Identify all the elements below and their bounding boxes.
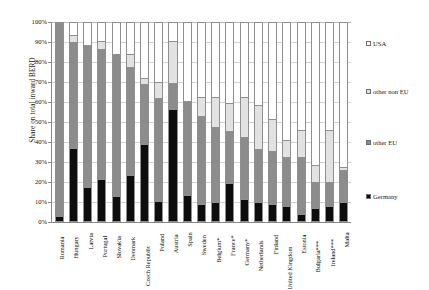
x-axis-label: Ireland***: [329, 239, 336, 267]
stacked-bar[interactable]: [268, 22, 277, 222]
bar-slot: [251, 22, 265, 222]
bar-segment-othernoneu: [169, 41, 176, 83]
x-axis-label-slot: Ireland***: [321, 224, 335, 288]
bar-segment-germany: [212, 202, 219, 221]
x-axis-label: United Kingdom: [286, 247, 293, 290]
x-axis-label: Malta: [343, 232, 350, 247]
bar-segment-othereu: [141, 84, 148, 144]
x-axis-label: Finland: [272, 235, 279, 255]
stacked-bar[interactable]: [311, 22, 320, 222]
x-axis-label: Sweden: [200, 235, 207, 255]
bar-segment-othernoneu: [212, 97, 219, 127]
bar-segment-othernoneu: [155, 82, 162, 99]
bar-segment-othereu: [98, 49, 105, 179]
bar-segment-othernoneu: [269, 119, 276, 151]
x-axis-label-slot: Romania: [51, 224, 65, 288]
y-axis-tick-label: 30%: [21, 159, 47, 166]
bar-segment-othernoneu: [226, 103, 233, 131]
bar-segment-usa: [198, 23, 205, 97]
bar-slot: [194, 22, 208, 222]
stacked-bar[interactable]: [211, 22, 220, 222]
y-axis-tick-label: 90%: [21, 39, 47, 46]
bar-slot: [52, 22, 66, 222]
y-axis-tick-label: 40%: [21, 139, 47, 146]
legend-item-othereu[interactable]: other EU: [366, 139, 428, 147]
bar-slot: [123, 22, 137, 222]
bar-slot: [166, 22, 180, 222]
bar-segment-othernoneu: [141, 78, 148, 85]
bar-slot: [266, 22, 280, 222]
bar-segment-usa: [298, 23, 305, 130]
bar-segment-othereu: [255, 149, 262, 203]
bar-segment-germany: [312, 208, 319, 221]
stacked-bar[interactable]: [140, 22, 149, 222]
x-axis-label: France*: [229, 235, 236, 256]
bar-segment-othereu: [169, 83, 176, 109]
bar-segment-othereu: [312, 182, 319, 208]
bar-segment-germany: [283, 206, 290, 221]
bar-slot: [337, 22, 351, 222]
legend-item-usa[interactable]: USA: [366, 40, 428, 48]
stacked-bar[interactable]: [69, 22, 78, 222]
bar-segment-usa: [255, 23, 262, 105]
legend-label: Germany: [373, 193, 428, 201]
stacked-bar[interactable]: [254, 22, 263, 222]
y-axis-tick-label: 20%: [21, 179, 47, 186]
stacked-bar[interactable]: [55, 22, 64, 222]
bar-segment-germany: [241, 199, 248, 221]
bar-segment-othereu: [340, 170, 347, 202]
legend-item-othernoneu[interactable]: other non EU: [366, 88, 428, 96]
x-axis-label-slot: Austria: [165, 224, 179, 288]
bar-segment-germany: [113, 196, 120, 221]
stacked-bar[interactable]: [183, 22, 192, 222]
bar-segment-usa: [241, 23, 248, 97]
bar-segment-othernoneu: [312, 165, 319, 182]
stacked-bar[interactable]: [126, 22, 135, 222]
y-axis-tick-label: 0%: [21, 219, 47, 226]
bar-slot: [209, 22, 223, 222]
x-axis-label: Bulgaria***: [314, 241, 321, 273]
stacked-bar[interactable]: [97, 22, 106, 222]
stacked-bar[interactable]: [325, 22, 334, 222]
x-axis-label-slot: Latvia: [79, 224, 93, 288]
legend-label: other EU: [373, 139, 428, 147]
bar-segment-germany: [269, 204, 276, 221]
x-axis-label: Czech Republic: [144, 245, 151, 286]
bar-segment-othernoneu: [241, 97, 248, 137]
stacked-bar[interactable]: [197, 22, 206, 222]
x-axis-label-slot: Belgium*: [208, 224, 222, 288]
bar-segment-usa: [340, 23, 347, 167]
bar-segment-usa: [84, 23, 91, 45]
stacked-bar[interactable]: [339, 22, 348, 222]
bar-segment-othernoneu: [70, 35, 77, 42]
y-axis-tick-label: 50%: [21, 119, 47, 126]
stacked-bar[interactable]: [240, 22, 249, 222]
x-axis-label: Germany*: [243, 238, 250, 265]
stacked-bar[interactable]: [282, 22, 291, 222]
bar-segment-othernoneu: [255, 105, 262, 149]
stacked-bar[interactable]: [83, 22, 92, 222]
stacked-bar[interactable]: [112, 22, 121, 222]
legend-label: USA: [373, 40, 428, 48]
bar-slot: [95, 22, 109, 222]
chart-legend: USAother non EUother EUGermany: [366, 22, 429, 222]
bar-segment-germany: [70, 148, 77, 221]
x-axis-label: Spain: [186, 232, 193, 247]
bar-segment-othereu: [70, 42, 77, 148]
stacked-bar[interactable]: [225, 22, 234, 222]
stacked-bar[interactable]: [297, 22, 306, 222]
legend-swatch-othereu-icon: [366, 140, 371, 145]
x-axis-label: Austria: [172, 234, 179, 253]
x-axis-label-slot: Poland: [151, 224, 165, 288]
bar-segment-usa: [283, 23, 290, 140]
stacked-bar[interactable]: [154, 22, 163, 222]
bar-segment-germany: [155, 201, 162, 222]
bar-segment-othernoneu: [283, 140, 290, 157]
legend-label: other non EU: [373, 88, 428, 96]
bar-segment-othereu: [283, 157, 290, 207]
stacked-bar[interactable]: [168, 22, 177, 222]
bar-segment-othernoneu: [98, 41, 105, 50]
bar-slot: [322, 22, 336, 222]
legend-item-germany[interactable]: Germany: [366, 193, 428, 201]
y-axis-tick-label: 10%: [21, 199, 47, 206]
